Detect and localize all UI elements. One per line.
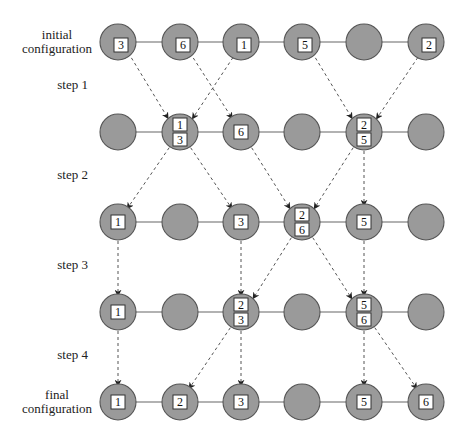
- packet-label: 6: [180, 38, 186, 52]
- processor-circle: [408, 204, 444, 240]
- move-arrow-step2-packet-1: [127, 148, 169, 209]
- node-r0-c3: 5: [284, 24, 320, 60]
- packet-label: 5: [361, 298, 367, 312]
- move-arrow-step2-packet-6: [252, 148, 290, 209]
- processor-circle: [408, 114, 444, 150]
- move-arrow-step1-packet-2: [376, 57, 418, 119]
- move-arrow-step2-packet-2: [314, 148, 353, 209]
- node-r1-c3: [284, 114, 320, 150]
- row-labels: initialconfigurationfinalconfigurationst…: [22, 27, 93, 416]
- packet-label: 2: [299, 208, 305, 222]
- packet-label: 6: [299, 223, 305, 237]
- node-r3-c5: [408, 294, 444, 330]
- processor-circle: [346, 24, 382, 60]
- node-r4-c5: 6: [408, 384, 444, 420]
- node-r2-c1: [162, 204, 198, 240]
- move-arrow-step4-packet-2: [189, 328, 230, 389]
- packet-label: 6: [423, 395, 429, 409]
- processor-circle: [408, 294, 444, 330]
- processor-circle: [284, 384, 320, 420]
- packet-label: 3: [177, 133, 183, 147]
- node-r0-c1: 6: [162, 24, 198, 60]
- node-r2-c4: 5: [346, 204, 382, 240]
- processor-circle: [284, 114, 320, 150]
- processor-circle: [162, 204, 198, 240]
- packet-label: 1: [241, 38, 247, 52]
- node-r3-c4: 56: [346, 294, 382, 330]
- move-arrow-step3-packet-6: [313, 238, 352, 299]
- node-r1-c2: 6: [223, 114, 259, 150]
- node-r1-c1: 13: [162, 114, 198, 150]
- processor-circle: [162, 294, 198, 330]
- move-arrow-step1-packet-3: [131, 58, 168, 119]
- node-r2-c0: 1: [100, 204, 136, 240]
- node-r0-c5: 2: [408, 24, 444, 60]
- node-r2-c3: 26: [284, 204, 320, 240]
- packet-label: 1: [115, 395, 121, 409]
- move-arrow-step2-packet-3: [191, 148, 232, 209]
- node-r4-c1: 2: [162, 384, 198, 420]
- packet-label: 3: [238, 395, 244, 409]
- node-r4-c2: 3: [223, 384, 259, 420]
- packet-label: 2: [177, 395, 183, 409]
- packet-label: 5: [361, 133, 367, 147]
- final-configuration-label: finalconfiguration: [22, 387, 93, 416]
- node-r3-c1: [162, 294, 198, 330]
- move-arrow-step4-packet-6: [375, 328, 417, 389]
- node-r3-c2: 23: [223, 294, 259, 330]
- node-r0-c2: 1: [223, 24, 259, 60]
- step-label-3: step 3: [57, 257, 88, 272]
- move-arrow-step3-packet-2: [253, 238, 291, 299]
- packet-label: 5: [302, 38, 308, 52]
- step-label-1: step 1: [57, 77, 88, 92]
- node-r4-c0: 1: [100, 384, 136, 420]
- node-r4-c3: [284, 384, 320, 420]
- node-r4-c4: 5: [346, 384, 382, 420]
- packet-label: 2: [426, 38, 432, 52]
- step-label-2: step 2: [57, 167, 88, 182]
- node-r3-c0: 1: [100, 294, 136, 330]
- packet-label: 3: [118, 38, 124, 52]
- initial-configuration-label: initialconfiguration: [22, 27, 93, 56]
- move-arrow-step1-packet-5: [315, 58, 352, 119]
- packet-label: 6: [361, 313, 367, 327]
- packet-label: 2: [238, 298, 244, 312]
- node-r3-c3: [284, 294, 320, 330]
- node-r2-c5: [408, 204, 444, 240]
- packet-label: 5: [361, 395, 367, 409]
- node-r1-c0: [100, 114, 136, 150]
- packet-label: 3: [238, 215, 244, 229]
- node-r1-c4: 25: [346, 114, 382, 150]
- node-r0-c0: 3: [100, 24, 136, 60]
- processor-circle: [100, 114, 136, 150]
- processor-circle: [284, 294, 320, 330]
- packet-label: 3: [238, 313, 244, 327]
- packet-label: 6: [238, 125, 244, 139]
- packet-label: 1: [177, 118, 183, 132]
- node-r2-c2: 3: [223, 204, 259, 240]
- step-label-4: step 4: [57, 347, 88, 362]
- node-r1-c5: [408, 114, 444, 150]
- packet-label: 1: [115, 215, 121, 229]
- routing-diagram-canvas: 3615213625132651235612356 initialconfigu…: [0, 0, 468, 443]
- packet-label: 1: [115, 305, 121, 319]
- packet-label: 2: [361, 118, 367, 132]
- routing-diagram: 3615213625132651235612356 initialconfigu…: [0, 0, 468, 443]
- packet-label: 5: [361, 215, 367, 229]
- node-r0-c4: [346, 24, 382, 60]
